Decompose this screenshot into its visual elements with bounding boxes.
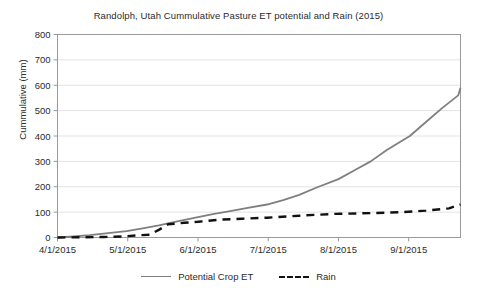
y-tick-label: 200 — [35, 181, 51, 192]
y-axis-ticks: 0100200300400500600700800 — [35, 29, 58, 243]
x-axis-ticks: 4/1/20155/1/20156/1/20157/1/20158/1/2015… — [39, 238, 427, 255]
legend-label-potential-crop-et: Potential Crop ET — [178, 271, 253, 282]
x-tick-label: 9/1/2015 — [390, 244, 427, 255]
x-tick-label: 8/1/2015 — [320, 244, 357, 255]
y-tick-label: 700 — [35, 54, 51, 65]
y-tick-label: 400 — [35, 131, 51, 142]
x-tick-label: 4/1/2015 — [39, 244, 76, 255]
y-tick-label: 600 — [35, 80, 51, 91]
y-tick-label: 500 — [35, 105, 51, 116]
legend-line-icon-dashed — [279, 276, 309, 278]
chart-container: Randolph, Utah Cummulative Pasture ET po… — [0, 0, 477, 302]
y-tick-label: 0 — [45, 232, 50, 243]
chart-legend: Potential Crop ET Rain — [0, 271, 477, 282]
x-tick-label: 5/1/2015 — [109, 244, 146, 255]
legend-item-potential-crop-et[interactable]: Potential Crop ET — [141, 271, 253, 282]
y-tick-label: 800 — [35, 29, 51, 40]
y-tick-label: 100 — [35, 207, 51, 218]
legend-line-icon-solid — [141, 276, 171, 277]
x-tick-label: 7/1/2015 — [250, 244, 287, 255]
legend-item-rain[interactable]: Rain — [279, 271, 336, 282]
legend-label-rain: Rain — [316, 271, 336, 282]
x-tick-label: 6/1/2015 — [179, 244, 216, 255]
y-tick-label: 300 — [35, 156, 51, 167]
plot-area: 0100200300400500600700800 4/1/20155/1/20… — [0, 0, 477, 302]
gridlines — [58, 35, 461, 213]
